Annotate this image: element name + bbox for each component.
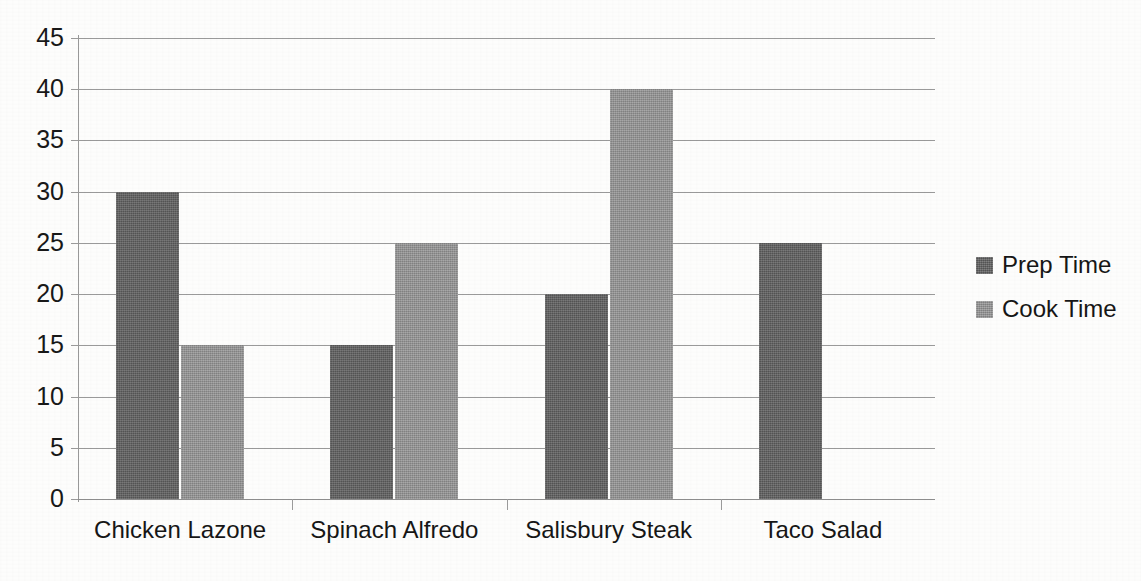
x-axis-label-salisbury-steak: Salisbury Steak: [525, 515, 692, 545]
y-tick-label-5: 5: [50, 435, 64, 460]
bar-cook-time-salisbury-steak: [610, 89, 673, 499]
legend-label: Cook Time: [1002, 295, 1117, 323]
category-separator-tick: [292, 499, 293, 510]
y-tick-40: [71, 89, 78, 90]
y-tick-30: [71, 192, 78, 193]
y-tick-15: [71, 345, 78, 346]
y-tick-label-40: 40: [36, 76, 64, 101]
x-axis-label-chicken-lazone: Chicken Lazone: [94, 515, 266, 545]
y-tick-10: [71, 397, 78, 398]
y-tick-label-20: 20: [36, 281, 64, 306]
y-tick-20: [71, 294, 78, 295]
gridline-45: [78, 38, 935, 39]
y-tick-label-0: 0: [50, 486, 64, 511]
gridline-30: [78, 192, 935, 193]
gridline-35: [78, 140, 935, 141]
y-tick-45: [71, 38, 78, 39]
prep-time-swatch-icon: [976, 257, 993, 274]
bar-prep-time-salisbury-steak: [545, 294, 608, 499]
legend-item-prep-time[interactable]: Prep Time: [976, 243, 1136, 287]
category-separator-tick: [507, 499, 508, 510]
x-axis-label-taco-salad: Taco Salad: [764, 515, 883, 545]
y-tick-label-30: 30: [36, 179, 64, 204]
y-tick-label-35: 35: [36, 127, 64, 152]
gridline-40: [78, 89, 935, 90]
y-tick-25: [71, 243, 78, 244]
y-tick-35: [71, 140, 78, 141]
y-tick-5: [71, 448, 78, 449]
cook-time-swatch-icon: [976, 301, 993, 318]
plot-area: [78, 38, 935, 499]
legend-item-cook-time[interactable]: Cook Time: [976, 287, 1136, 331]
bar-prep-time-chicken-lazone: [116, 192, 179, 499]
y-tick-label-10: 10: [36, 384, 64, 409]
y-tick-label-45: 45: [36, 25, 64, 50]
y-tick-label-15: 15: [36, 332, 64, 357]
bar-chart: 454035302520151050 Chicken LazoneSpinach…: [0, 0, 1141, 581]
bar-cook-time-chicken-lazone: [181, 345, 244, 499]
bar-prep-time-spinach-alfredo: [330, 345, 393, 499]
y-tick-0: [71, 499, 78, 500]
chart-legend: Prep TimeCook Time: [976, 243, 1136, 331]
y-axis-line: [78, 35, 79, 502]
bar-prep-time-taco-salad: [759, 243, 822, 499]
y-axis-tick-labels: 454035302520151050: [14, 38, 64, 499]
legend-label: Prep Time: [1002, 251, 1111, 279]
x-axis-label-spinach-alfredo: Spinach Alfredo: [310, 515, 478, 545]
category-separator-tick: [721, 499, 722, 510]
y-tick-label-25: 25: [36, 230, 64, 255]
bar-cook-time-spinach-alfredo: [395, 243, 458, 499]
